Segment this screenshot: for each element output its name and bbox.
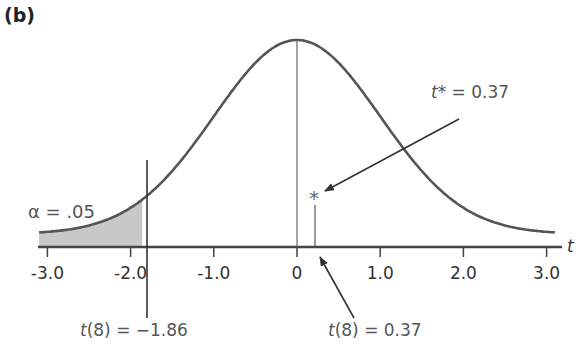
x-tick-label: 1.0: [367, 263, 394, 283]
tstar-label: t* = 0.37: [431, 82, 509, 102]
star-marker: *: [309, 186, 319, 210]
x-tick-label: -3.0: [31, 263, 64, 283]
alpha-label: α = .05: [28, 201, 95, 222]
critical-value-label: t(8) = −1.86: [80, 320, 188, 340]
panel-label: (b): [4, 4, 35, 26]
x-tick-label: 3.0: [533, 263, 560, 283]
tstar-arrow: [325, 119, 459, 191]
observed-arrow: [320, 257, 354, 318]
x-axis-ticks: -3.0-2.0-1.001.02.03.0: [31, 247, 560, 283]
x-tick-label: 0: [292, 263, 303, 283]
x-tick-label: -2.0: [114, 263, 147, 283]
x-tick-label: -1.0: [197, 263, 230, 283]
observed-value-label: t(8) = 0.37: [328, 320, 422, 340]
t-distribution-chart: (b) -3.0-2.0-1.001.02.03.0 t * α = .05 t…: [0, 0, 579, 350]
x-axis-label: t: [567, 236, 575, 256]
x-tick-label: 2.0: [450, 263, 477, 283]
